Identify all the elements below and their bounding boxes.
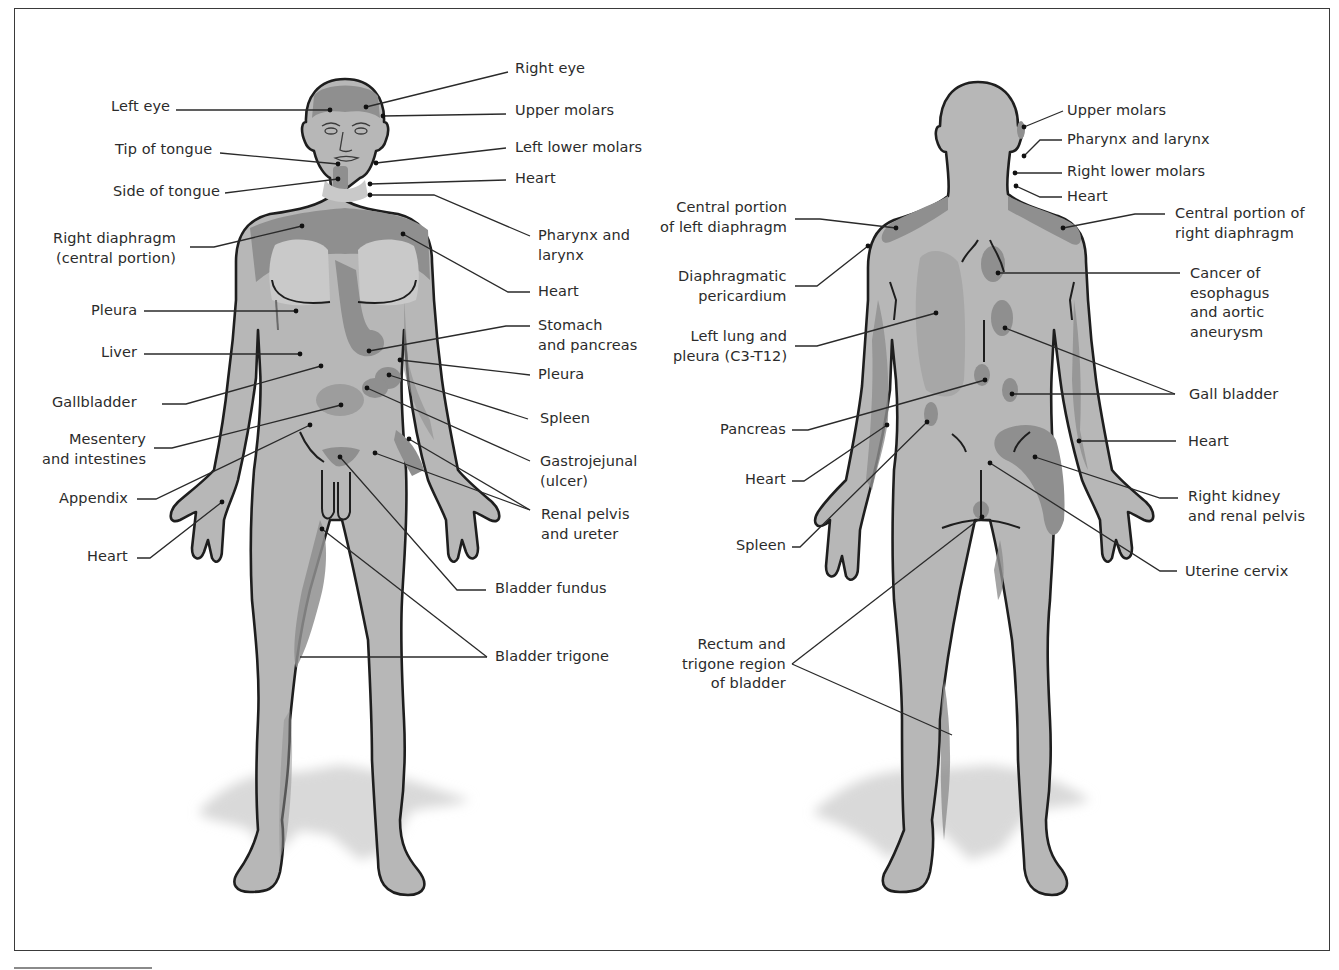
- anchor-dot-diaphragmatic-pericardium: [866, 244, 871, 249]
- label-right-diaphragm: Right diaphragm (central portion): [53, 229, 176, 268]
- leader-right-eye: [366, 72, 508, 107]
- label-right-kidney: Right kidney and renal pelvis: [1188, 487, 1305, 526]
- label-pharynx-larynx-back: Pharynx and larynx: [1067, 130, 1210, 150]
- label-mesentery: Mesentery and intestines: [42, 430, 146, 469]
- label-spleen-back: Spleen: [736, 536, 786, 556]
- anchor-dot-right-kidney: [1033, 455, 1038, 460]
- anchor-dot-appendix: [308, 423, 313, 428]
- anchor-dot-gall-bladder-back-2: [1010, 392, 1015, 397]
- anchor-dot-spleen-back: [925, 420, 930, 425]
- label-pleura-left: Pleura: [91, 301, 137, 321]
- leader-left-lower-molars: [376, 148, 506, 163]
- label-spleen: Spleen: [540, 409, 590, 429]
- anchor-dot-side-of-tongue: [336, 177, 341, 182]
- label-tip-of-tongue: Tip of tongue: [115, 140, 212, 160]
- anchor-dot-pleura-left: [294, 309, 299, 314]
- anchor-dot-liver: [298, 352, 303, 357]
- label-right-lower-molars: Right lower molars: [1067, 162, 1205, 182]
- leader-side-of-tongue: [225, 179, 338, 193]
- anchor-dot-upper-molars: [381, 114, 386, 119]
- anchor-dot-right-diaphragm: [300, 224, 305, 229]
- label-pancreas-back: Pancreas: [720, 420, 786, 440]
- label-gastrojejunal: Gastrojejunal (ulcer): [540, 452, 637, 491]
- leader-pharynx-larynx-back: [1024, 140, 1062, 156]
- label-pharynx-larynx: Pharynx and larynx: [538, 226, 630, 265]
- leader-right-diaphragm-back: [1063, 214, 1165, 228]
- anchor-dot-gastrojejunal: [365, 386, 370, 391]
- label-heart-arm-back: Heart: [745, 470, 786, 490]
- anchor-dot-heart-arm-right-back: [1077, 439, 1082, 444]
- label-bladder-fundus: Bladder fundus: [495, 579, 607, 599]
- leader-heart-neck: [370, 180, 506, 184]
- label-gall-bladder-back: Gall bladder: [1189, 385, 1278, 405]
- anchor-dot-right-diaphragm-back: [1061, 226, 1066, 231]
- anchor-dot-renal-pelvis-ureter-2: [373, 451, 378, 456]
- label-renal-pelvis-ureter: Renal pelvis and ureter: [541, 505, 630, 544]
- anchor-dot-pharynx-larynx: [368, 193, 373, 198]
- label-heart-arm-right-back: Heart: [1188, 432, 1229, 452]
- label-heart-chest: Heart: [538, 282, 579, 302]
- anchor-dot-bladder-fundus: [338, 455, 343, 460]
- leader-upper-molars-back: [1024, 111, 1063, 127]
- label-bladder-trigone: Bladder trigone: [495, 647, 609, 667]
- label-gallbladder: Gallbladder: [52, 393, 137, 413]
- anchor-dot-tip-of-tongue: [336, 162, 341, 167]
- label-side-of-tongue: Side of tongue: [113, 182, 220, 202]
- label-liver: Liver: [101, 343, 137, 363]
- anchor-dot-pleura-right: [398, 358, 403, 363]
- label-stomach-pancreas: Stomach and pancreas: [538, 316, 637, 355]
- label-heart-hand: Heart: [87, 547, 128, 567]
- anchor-dot-mesentery: [339, 403, 344, 408]
- anchor-dot-bladder-trigone-2: [320, 527, 325, 532]
- label-diaphragmatic-pericardium: Diaphragmatic pericardium: [678, 267, 787, 306]
- label-uterine-cervix: Uterine cervix: [1185, 562, 1288, 582]
- anterior-shadow: [200, 765, 470, 860]
- anchor-dot-right-eye: [364, 105, 369, 110]
- anchor-dot-left-eye: [328, 108, 333, 113]
- label-left-diaphragm-back: Central portion of left diaphragm: [660, 198, 787, 237]
- label-cancer-esophagus: Cancer of esophagus and aortic aneurysm: [1190, 264, 1269, 342]
- label-left-lower-molars: Left lower molars: [515, 138, 642, 158]
- label-right-diaphragm-back: Central portion of right diaphragm: [1175, 204, 1305, 243]
- anchor-dot-renal-pelvis-ureter: [407, 437, 412, 442]
- anchor-dot-gallbladder: [319, 364, 324, 369]
- anchor-dot-gall-bladder-back: [1003, 326, 1008, 331]
- leader-left-diaphragm-back: [795, 219, 896, 228]
- anchor-dot-stomach-pancreas: [367, 349, 372, 354]
- anchor-dot-spleen: [387, 373, 392, 378]
- label-upper-molars-back: Upper molars: [1067, 101, 1166, 121]
- anchor-dot-left-lower-molars: [374, 161, 379, 166]
- label-upper-molars: Upper molars: [515, 101, 614, 121]
- leader-heart-neck-back: [1016, 186, 1062, 197]
- label-right-eye: Right eye: [515, 59, 585, 79]
- anchor-dot-pharynx-larynx-back: [1022, 154, 1027, 159]
- anchor-dot-heart-neck-back: [1014, 184, 1019, 189]
- leader-diaphragmatic-pericardium: [795, 246, 868, 286]
- anchor-dot-heart-neck: [368, 182, 373, 187]
- label-pleura-right: Pleura: [538, 365, 584, 385]
- label-rectum-trigone: Rectum and trigone region of bladder: [682, 635, 786, 694]
- anchor-dot-heart-hand: [220, 500, 225, 505]
- label-left-eye: Left eye: [111, 97, 170, 117]
- anchor-dot-left-diaphragm-back: [894, 226, 899, 231]
- label-left-lung-pleura: Left lung and pleura (C3-T12): [673, 327, 787, 366]
- anchor-dot-heart-arm-back: [885, 423, 890, 428]
- anchor-dot-left-lung-pleura: [934, 311, 939, 316]
- anchor-dot-right-lower-molars: [1013, 171, 1018, 176]
- leader-upper-molars: [383, 114, 506, 116]
- label-appendix: Appendix: [59, 489, 128, 509]
- anchor-dot-heart-chest: [401, 232, 406, 237]
- label-heart-neck: Heart: [515, 169, 556, 189]
- label-heart-neck-back: Heart: [1067, 187, 1108, 207]
- anchor-dot-pancreas-back: [983, 378, 988, 383]
- anchor-dot-upper-molars-back: [1022, 125, 1027, 130]
- anchor-dot-cancer-esophagus: [996, 271, 1001, 276]
- anchor-dot-uterine-cervix: [988, 461, 993, 466]
- posterior-lung-zone: [916, 251, 965, 397]
- anchor-dot-rectum-trigone: [980, 515, 985, 520]
